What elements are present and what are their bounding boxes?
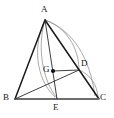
vertex-label-e: E	[53, 103, 59, 112]
vertex-label-d: D	[81, 59, 88, 68]
vertex-label-b: B	[3, 93, 9, 102]
point-g-dot	[51, 69, 55, 73]
vertex-label-c: C	[100, 93, 106, 102]
vertex-label-g: G	[43, 65, 50, 74]
geometry-figure: A B C D E G	[0, 0, 114, 118]
geometry-canvas	[0, 0, 114, 118]
side-ac-line	[45, 20, 99, 99]
vertex-label-a: A	[41, 5, 48, 14]
segment-gd-line	[53, 70, 79, 71]
